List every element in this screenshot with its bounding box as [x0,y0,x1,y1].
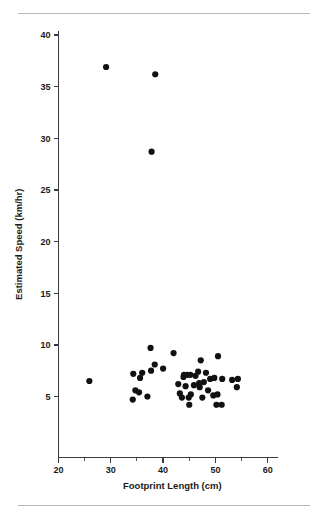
data-point [205,387,211,393]
axes-group [59,31,279,458]
data-point [186,402,192,408]
y-tick-label: 20 [40,237,50,247]
x-tick-label: 40 [158,465,168,475]
data-point [147,345,153,351]
data-point [186,394,192,400]
data-point [152,361,158,367]
data-point [148,149,154,155]
data-point [219,402,225,408]
data-point [192,373,198,379]
y-tick-label: 30 [40,134,50,144]
data-point [234,384,240,390]
data-point [152,71,158,77]
data-point [229,377,235,383]
x-tick-label: 60 [263,465,273,475]
data-point [144,393,150,399]
data-point [148,368,154,374]
data-point [203,370,209,376]
chart-canvas: 510152025303540 2030405060 Footprint Len… [0,0,327,520]
data-point [130,396,136,402]
data-points-group [86,64,241,408]
x-axis-ticks: 2030405060 [53,458,272,475]
data-point [219,376,225,382]
y-axis-ticks: 510152025303540 [40,30,58,402]
data-point [103,64,109,70]
data-point [187,372,193,378]
data-point [235,376,241,382]
data-point [136,389,142,395]
y-axis-title: Estimated Speed (km/hr) [13,189,24,300]
y-tick-label: 15 [40,289,50,299]
data-point [179,394,185,400]
y-tick-label: 40 [40,30,50,40]
data-point [197,384,203,390]
data-point [137,375,143,381]
data-point [130,371,136,377]
data-point [191,382,197,388]
data-point [182,383,188,389]
data-point [86,378,92,384]
data-point [160,366,166,372]
data-point [198,357,204,363]
x-tick-label: 30 [106,465,116,475]
x-tick-label: 20 [53,465,63,475]
x-axis-title: Footprint Length (cm) [123,480,222,491]
scatter-plot-figure: 510152025303540 2030405060 Footprint Len… [0,0,327,520]
data-point [215,353,221,359]
x-tick-label: 50 [210,465,220,475]
y-tick-label: 10 [40,340,50,350]
y-tick-label: 25 [40,185,50,195]
y-tick-label: 5 [45,392,50,402]
data-point [214,391,220,397]
data-point [211,375,217,381]
y-tick-label: 35 [40,82,50,92]
data-point [170,350,176,356]
data-point [180,374,186,380]
data-point [199,394,205,400]
data-point [175,381,181,387]
